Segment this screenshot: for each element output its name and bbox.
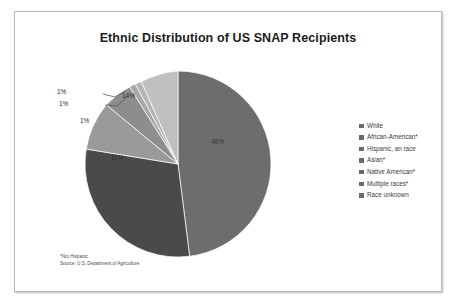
legend-label: Hispanic, an race: [367, 146, 416, 152]
chart-panel: Ethnic Distribution of US SNAP Recipient…: [14, 11, 442, 292]
pie-slice-african-american[interactable]: [85, 149, 190, 257]
legend-label: White: [367, 123, 383, 129]
legend-label: Race unknown: [367, 192, 409, 198]
pie-label-multiple-races: 1%: [59, 100, 68, 107]
legend-label: Multiple races*: [367, 181, 408, 187]
legend-swatch-icon: [359, 182, 364, 187]
pie-label-native-american: 1%: [57, 88, 66, 95]
legend-swatch-icon: [359, 124, 364, 129]
legend-item-white[interactable]: White: [359, 120, 455, 132]
page-title: Ethnic Distribution of US SNAP Recipient…: [15, 31, 441, 45]
pie-chart: 48% 24% 14% 11% 1% 1% 1%: [63, 64, 293, 264]
footnote: *Not Hispanic Source: U.S. Department of…: [60, 253, 139, 268]
legend-item-african-american[interactable]: African-American*: [359, 132, 455, 144]
legend-item-asian[interactable]: Asian*: [359, 155, 455, 167]
pie-chart-svg: [63, 64, 293, 264]
legend-item-hispanic[interactable]: Hispanic, an race: [359, 143, 455, 155]
legend-swatch-icon: [359, 147, 364, 152]
legend-swatch-icon: [359, 135, 364, 140]
legend-label: Native American*: [367, 169, 415, 175]
pie-label-race-unknown: 1%: [80, 117, 89, 124]
legend: White African-American* Hispanic, an rac…: [359, 120, 455, 201]
legend-label: African-American*: [367, 134, 418, 140]
legend-item-race-unknown[interactable]: Race unknown: [359, 190, 455, 202]
legend-label: Asian*: [367, 157, 385, 163]
pie-slice-white[interactable]: [178, 71, 271, 256]
legend-swatch-icon: [359, 193, 364, 198]
legend-item-multiple-races[interactable]: Multiple races*: [359, 178, 455, 190]
legend-swatch-icon: [359, 158, 364, 163]
footnote-line-2: Source: U.S. Department of Agriculture: [60, 260, 139, 268]
legend-swatch-icon: [359, 170, 364, 175]
footnote-line-1: *Not Hispanic: [60, 253, 139, 261]
legend-item-native-american[interactable]: Native American*: [359, 166, 455, 178]
